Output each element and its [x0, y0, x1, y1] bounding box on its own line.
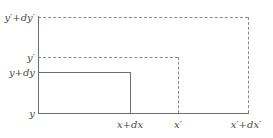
mid-dashed-line-y-prime	[38, 57, 178, 58]
phase-space-cell-diagram: y′+dy′ y′ y+dy y x+dx x′ x′+dx′	[0, 0, 273, 138]
horizontal-axis	[38, 113, 249, 114]
vertical-axis	[38, 16, 39, 114]
axis-label-y-prime: y′	[0, 52, 35, 63]
axis-label-y-prime-plus-dy-prime: y′+dy′	[0, 12, 35, 23]
axis-label-x-prime: x′	[174, 119, 182, 130]
inner-solid-line-y-plus-dy	[38, 72, 131, 73]
axis-label-y-plus-dy: y+dy	[0, 67, 35, 78]
mid-dashed-line-x-prime	[178, 57, 179, 113]
axis-label-x-prime-plus-dx-prime: x′+dx′	[231, 119, 262, 130]
axis-label-y: y	[0, 108, 35, 119]
top-dashed-line-y-prime-plus-dy-prime	[38, 17, 248, 18]
inner-solid-line-x-plus-dx	[130, 72, 131, 114]
axis-label-x-plus-dx: x+dx	[117, 119, 143, 130]
right-dashed-line-x-prime-plus-dx-prime	[248, 17, 249, 113]
